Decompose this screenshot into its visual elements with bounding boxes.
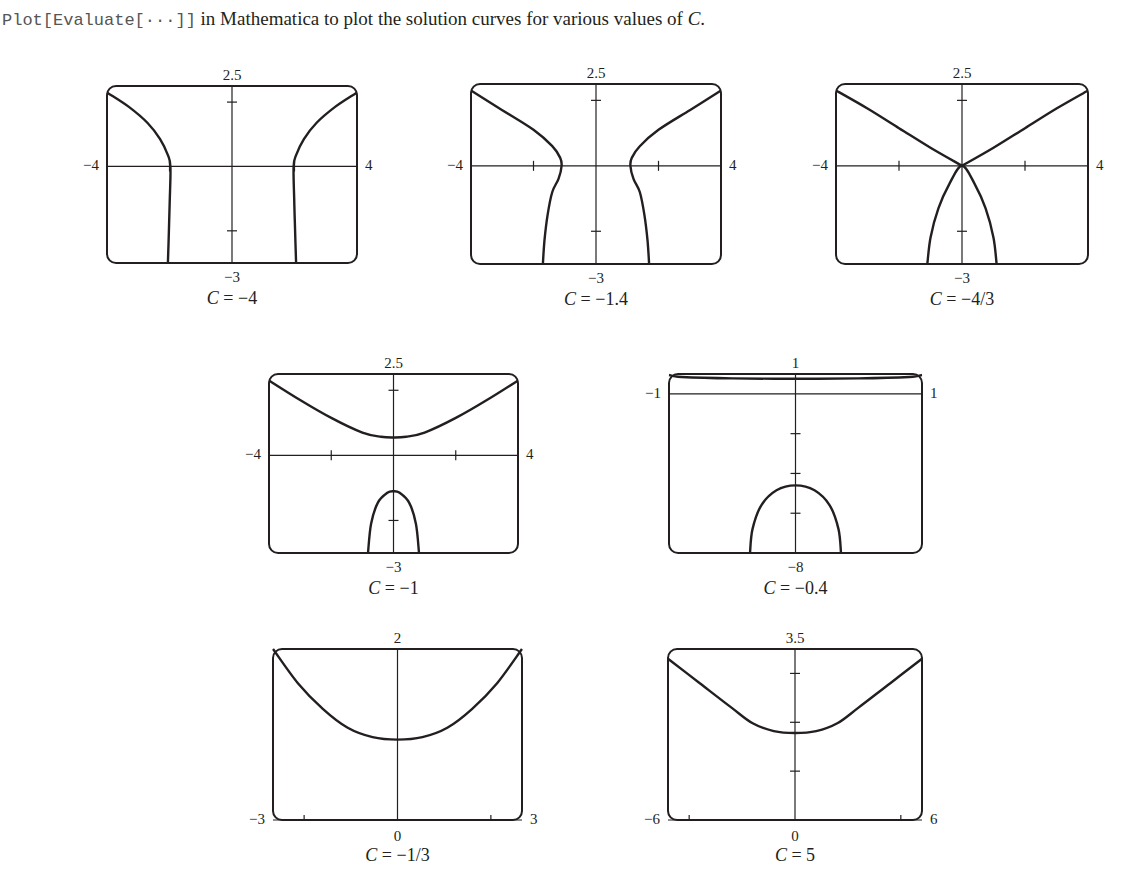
x-min-label: −4 xyxy=(83,157,99,173)
plot-7: 3.50−66C = 5 xyxy=(668,649,922,820)
caption-value: = 5 xyxy=(787,845,815,865)
intro-end: . xyxy=(700,8,705,29)
caption-value: = −4/3 xyxy=(942,289,994,309)
plot-4: 2.5−3−44C = −1 xyxy=(269,374,518,553)
c-symbol: C xyxy=(688,8,701,29)
y-min-label: −3 xyxy=(224,269,240,285)
caption-variable: C xyxy=(207,288,219,308)
intro-text: Plot[Evaluate[···]] in Mathematica to pl… xyxy=(2,8,705,30)
y-max-label: 2 xyxy=(394,630,402,646)
plot-caption: C = −1/3 xyxy=(365,845,429,866)
caption-variable: C xyxy=(365,845,377,865)
y-min-label: 0 xyxy=(791,828,799,844)
plot-caption: C = −0.4 xyxy=(764,578,828,599)
y-min-label: −3 xyxy=(588,270,604,286)
y-max-label: 3.5 xyxy=(786,630,805,646)
solution-curve-left-branch xyxy=(471,91,562,265)
y-min-label: −3 xyxy=(954,270,970,286)
x-max-label: 4 xyxy=(729,157,737,173)
plot-canvas xyxy=(836,84,1088,264)
y-max-label: 2.5 xyxy=(953,65,972,81)
caption-variable: C xyxy=(775,845,787,865)
caption-value: = −4 xyxy=(219,288,257,308)
solution-curve-upper-right xyxy=(962,91,1088,166)
caption-value: = −0.4 xyxy=(776,578,828,598)
y-max-label: 1 xyxy=(792,355,800,371)
x-max-label: 4 xyxy=(1096,157,1104,173)
solution-curve-left-branch xyxy=(107,92,171,263)
solution-curve-right-branch xyxy=(630,91,721,265)
plot-caption: C = −4 xyxy=(207,288,257,309)
x-max-label: 4 xyxy=(365,157,373,173)
plot-canvas xyxy=(668,649,922,820)
plot-3: 2.5−3−44C = −4/3 xyxy=(836,84,1088,264)
code-snippet: Plot[Evaluate[···]] xyxy=(2,11,196,30)
solution-curve-upper-left xyxy=(836,91,962,166)
x-min-label: −1 xyxy=(645,385,661,401)
plot-caption: C = 5 xyxy=(775,845,815,866)
x-min-label: −4 xyxy=(812,157,828,173)
plot-5: 1−8−11C = −0.4 xyxy=(669,374,922,553)
caption-variable: C xyxy=(930,289,942,309)
x-max-label: 3 xyxy=(530,811,538,827)
y-max-label: 2.5 xyxy=(384,355,403,371)
plot-2: 2.5−3−44C = −1.4 xyxy=(471,84,721,264)
caption-value: = −1/3 xyxy=(377,845,429,865)
caption-variable: C xyxy=(564,289,576,309)
plot-caption: C = −4/3 xyxy=(930,289,994,310)
x-max-label: 4 xyxy=(526,446,534,462)
x-max-label: 6 xyxy=(930,811,938,827)
plot-caption: C = −1 xyxy=(368,578,418,599)
x-min-label: −4 xyxy=(447,157,463,173)
caption-variable: C xyxy=(764,578,776,598)
plot-canvas xyxy=(269,374,518,553)
caption-value: = −1 xyxy=(380,578,418,598)
plot-caption: C = −1.4 xyxy=(564,289,628,310)
plot-canvas xyxy=(669,374,922,553)
y-min-label: −3 xyxy=(386,559,402,575)
plot-canvas xyxy=(273,649,522,820)
intro-sentence: in Mathematica to plot the solution curv… xyxy=(196,8,688,29)
plot-1: 2.5−3−44C = −4 xyxy=(107,86,357,263)
caption-variable: C xyxy=(368,578,380,598)
plot-canvas xyxy=(107,86,357,263)
y-min-label: −8 xyxy=(788,559,804,575)
x-max-label: 1 xyxy=(930,385,938,401)
y-max-label: 2.5 xyxy=(587,65,606,81)
y-min-label: 0 xyxy=(394,828,402,844)
x-min-label: −6 xyxy=(644,811,660,827)
caption-value: = −1.4 xyxy=(576,289,628,309)
y-max-label: 2.5 xyxy=(223,67,242,83)
plot-canvas xyxy=(471,84,721,264)
x-min-label: −3 xyxy=(249,811,265,827)
x-min-label: −4 xyxy=(245,446,261,462)
solution-curve-right-branch xyxy=(294,92,357,263)
plot-6: 20−33C = −1/3 xyxy=(273,649,522,820)
